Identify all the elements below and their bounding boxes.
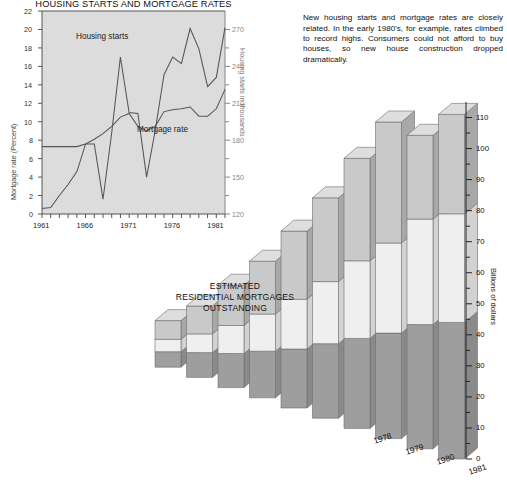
bar-chart-ytick: 20 (476, 392, 485, 401)
bar-chart-title-line2: RESIDENTIAL MORTGAGES (176, 292, 294, 302)
bar-chart-title-line1: ESTIMATED (210, 281, 260, 291)
bar-segment (344, 158, 370, 260)
bar-segment (187, 334, 213, 353)
bar-chart-ytick: 100 (476, 144, 489, 153)
bar-segment (281, 349, 307, 408)
bar-segment (218, 326, 244, 354)
bar-segment (313, 198, 339, 282)
bar-segment (439, 114, 465, 213)
bar-segment (439, 322, 465, 459)
bar-chart-axis-title: Billions of dollars (489, 268, 498, 325)
bar-chart-ytick: 10 (476, 423, 485, 432)
bar-segment (439, 214, 465, 323)
bar-segment (407, 219, 433, 325)
bar-segment (344, 261, 370, 339)
bar-segment (250, 351, 276, 398)
bar-segment (344, 338, 370, 428)
bar-segment (313, 344, 339, 419)
bar-chart-ytick: 80 (476, 206, 485, 215)
bar-segment (155, 339, 181, 351)
bar-chart-plot (0, 0, 507, 491)
bar-chart-ytick: 30 (476, 361, 485, 370)
bar-segment (218, 354, 244, 388)
residential-mortgages-bar-chart (0, 0, 507, 491)
bar-segment (407, 325, 433, 449)
bar-segment (376, 122, 402, 243)
bar-chart-ytick: 90 (476, 175, 485, 184)
bar-chart-ytick: 70 (476, 237, 485, 246)
bar-chart-ytick: 50 (476, 299, 485, 308)
bar-segment (250, 314, 276, 351)
bar-segment (155, 321, 181, 340)
bar-chart-ytick: 0 (476, 454, 480, 463)
bar-segment (376, 333, 402, 439)
bar-segment (187, 353, 213, 378)
bar-chart-title-line3: OUTSTANDING (203, 303, 267, 313)
bar-segment (407, 135, 433, 219)
bar-segment (376, 243, 402, 333)
bar-chart-title: ESTIMATED RESIDENTIAL MORTGAGES OUTSTAND… (150, 281, 320, 314)
bar-chart-ytick: 40 (476, 330, 485, 339)
bar-chart-ytick: 110 (476, 113, 488, 122)
bar-chart-ytick: 60 (476, 268, 485, 277)
bar-segment (155, 352, 181, 368)
